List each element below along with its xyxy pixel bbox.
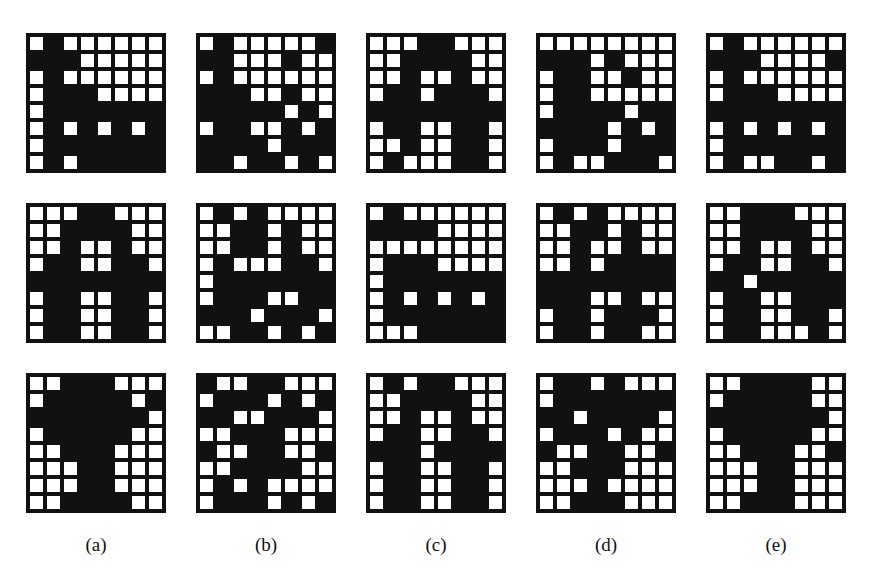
black-cell bbox=[470, 273, 487, 290]
white-cell bbox=[810, 69, 827, 86]
white-cell bbox=[436, 290, 453, 307]
white-cell bbox=[96, 35, 113, 52]
white-cell bbox=[810, 375, 827, 392]
black-cell bbox=[742, 290, 759, 307]
black-cell bbox=[623, 324, 640, 341]
white-cell bbox=[776, 256, 793, 273]
black-cell bbox=[249, 392, 266, 409]
white-cell bbox=[708, 222, 725, 239]
white-cell bbox=[810, 222, 827, 239]
black-cell bbox=[249, 154, 266, 171]
black-cell bbox=[62, 324, 79, 341]
white-cell bbox=[759, 239, 776, 256]
white-cell bbox=[45, 494, 62, 511]
black-cell bbox=[725, 324, 742, 341]
white-cell bbox=[232, 154, 249, 171]
black-cell bbox=[572, 426, 589, 443]
white-cell bbox=[317, 426, 334, 443]
pattern-grid-row2-b bbox=[196, 203, 336, 343]
black-cell bbox=[759, 120, 776, 137]
black-cell bbox=[640, 137, 657, 154]
black-cell bbox=[827, 273, 844, 290]
black-cell bbox=[793, 120, 810, 137]
black-cell bbox=[232, 222, 249, 239]
black-cell bbox=[657, 392, 674, 409]
white-cell bbox=[640, 52, 657, 69]
black-cell bbox=[742, 137, 759, 154]
black-cell bbox=[96, 375, 113, 392]
black-cell bbox=[810, 137, 827, 154]
white-cell bbox=[402, 324, 419, 341]
black-cell bbox=[62, 137, 79, 154]
black-cell bbox=[776, 443, 793, 460]
black-cell bbox=[589, 120, 606, 137]
white-cell bbox=[657, 426, 674, 443]
white-cell bbox=[79, 69, 96, 86]
white-cell bbox=[589, 256, 606, 273]
white-cell bbox=[708, 239, 725, 256]
white-cell bbox=[793, 205, 810, 222]
black-cell bbox=[232, 494, 249, 511]
white-cell bbox=[385, 239, 402, 256]
white-cell bbox=[827, 307, 844, 324]
white-cell bbox=[708, 426, 725, 443]
white-cell bbox=[266, 290, 283, 307]
white-cell bbox=[487, 154, 504, 171]
black-cell bbox=[470, 324, 487, 341]
white-cell bbox=[130, 392, 147, 409]
black-cell bbox=[623, 290, 640, 307]
black-cell bbox=[215, 273, 232, 290]
black-cell bbox=[79, 443, 96, 460]
white-cell bbox=[810, 239, 827, 256]
white-cell bbox=[368, 392, 385, 409]
black-cell bbox=[113, 290, 130, 307]
white-cell bbox=[368, 137, 385, 154]
white-cell bbox=[436, 222, 453, 239]
black-cell bbox=[249, 460, 266, 477]
white-cell bbox=[606, 239, 623, 256]
white-cell bbox=[266, 137, 283, 154]
white-cell bbox=[708, 35, 725, 52]
black-cell bbox=[113, 120, 130, 137]
white-cell bbox=[623, 443, 640, 460]
black-cell bbox=[232, 137, 249, 154]
black-cell bbox=[130, 137, 147, 154]
black-cell bbox=[555, 375, 572, 392]
white-cell bbox=[793, 86, 810, 103]
black-cell bbox=[249, 239, 266, 256]
white-cell bbox=[368, 477, 385, 494]
white-cell bbox=[266, 222, 283, 239]
black-cell bbox=[113, 256, 130, 273]
black-cell bbox=[827, 103, 844, 120]
black-cell bbox=[793, 307, 810, 324]
white-cell bbox=[62, 205, 79, 222]
white-cell bbox=[810, 426, 827, 443]
white-cell bbox=[453, 35, 470, 52]
white-cell bbox=[300, 324, 317, 341]
black-cell bbox=[283, 307, 300, 324]
white-cell bbox=[538, 35, 555, 52]
black-cell bbox=[300, 290, 317, 307]
white-cell bbox=[555, 256, 572, 273]
pattern-grid-row3-c bbox=[366, 373, 506, 513]
black-cell bbox=[62, 494, 79, 511]
white-cell bbox=[368, 239, 385, 256]
black-cell bbox=[589, 460, 606, 477]
white-cell bbox=[657, 86, 674, 103]
white-cell bbox=[640, 460, 657, 477]
black-cell bbox=[640, 307, 657, 324]
white-cell bbox=[232, 69, 249, 86]
white-cell bbox=[368, 324, 385, 341]
white-cell bbox=[657, 375, 674, 392]
white-cell bbox=[589, 154, 606, 171]
white-cell bbox=[283, 103, 300, 120]
white-cell bbox=[623, 477, 640, 494]
white-cell bbox=[419, 409, 436, 426]
black-cell bbox=[453, 290, 470, 307]
black-cell bbox=[402, 69, 419, 86]
white-cell bbox=[759, 69, 776, 86]
white-cell bbox=[538, 154, 555, 171]
black-cell bbox=[249, 494, 266, 511]
black-cell bbox=[147, 103, 164, 120]
white-cell bbox=[640, 494, 657, 511]
